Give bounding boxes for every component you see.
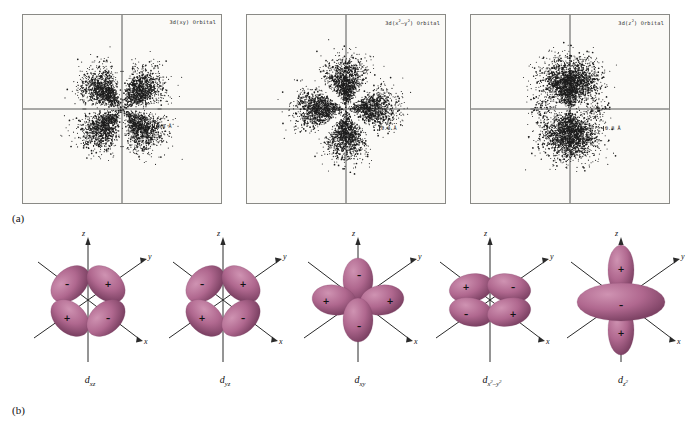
orbital-shape-d-xz: z y x–++– <box>20 228 160 378</box>
sub-sup-2: 2 <box>499 379 502 384</box>
svg-text:+: + <box>617 264 624 274</box>
scatter-dots-3d-xy <box>23 15 221 203</box>
svg-text:+: + <box>239 279 246 289</box>
scatter-panel-3d-xy: 3d(xy) Orbital 0.8 Å <box>22 14 222 204</box>
scale-tick-left <box>379 126 380 131</box>
scale-label-3d-x2-y2: 0.8 Å <box>381 125 397 131</box>
svg-text:–: – <box>65 279 69 289</box>
svg-text:x: x <box>278 337 283 346</box>
scale-label-3d-z2: 0.8 Å <box>605 125 621 131</box>
label-subscript: x2–y2 <box>487 380 501 387</box>
panel-b-label: (b) <box>12 404 25 416</box>
orbital-label-d-xz: dxz <box>20 374 160 387</box>
scale-tick-left <box>603 126 604 131</box>
panel-title-3d-z2: 3d(z2) Orbital <box>618 19 664 26</box>
svg-text:+: + <box>322 296 329 306</box>
orbital-label-d-x2-y2: dx2–y2 <box>422 374 562 387</box>
orbital-diagram-d-z2: z y x+–+ dz2 <box>553 228 693 398</box>
svg-text:y: y <box>282 252 287 261</box>
label-subscript: xz <box>90 380 96 387</box>
orbital-diagram-d-yz: z y x–++– dyz <box>155 228 295 398</box>
orbital-diagram-d-x2-y2: z y x+––+ dx2–y2 <box>422 228 562 398</box>
panel-a-scatter-row: 3d(xy) Orbital 0.8 Å 3d(x2–y2) Orbital 0… <box>0 0 697 215</box>
svg-text:y: y <box>147 252 152 261</box>
svg-text:+: + <box>198 313 205 323</box>
svg-text:+: + <box>104 279 111 289</box>
orbital-shape-d-yz: z y x–++– <box>155 228 295 378</box>
svg-text:–: – <box>357 321 361 331</box>
d-orbital-figure: 3d(xy) Orbital 0.8 Å 3d(x2–y2) Orbital 0… <box>0 0 697 426</box>
orbital-shape-d-z2: z y x+–+ <box>553 228 693 378</box>
label-subscript: z2 <box>623 380 628 387</box>
scale-bar-3d-xy: 0.8 Å <box>154 123 172 129</box>
scale-tick-left <box>154 124 155 129</box>
sub-sup: 2 <box>626 379 629 384</box>
svg-text:+: + <box>63 313 70 323</box>
scale-bar-3d-z2: 0.8 Å <box>603 125 621 131</box>
svg-text:+: + <box>462 282 469 292</box>
svg-text:z: z <box>614 229 619 238</box>
svg-text:–: – <box>241 313 245 323</box>
label-subscript: yz <box>225 380 231 387</box>
svg-text:x: x <box>143 337 148 346</box>
svg-text:–: – <box>357 270 361 280</box>
svg-text:x: x <box>676 337 681 346</box>
orbital-diagram-d-xy: z y x–++– dxy <box>290 228 430 398</box>
panel-title-3d-xy: 3d(xy) Orbital <box>169 19 216 25</box>
svg-text:x: x <box>545 337 550 346</box>
orbital-label-d-xy: dxy <box>290 374 430 387</box>
panel-title-3d-x2-y2: 3d(x2–y2) Orbital <box>385 19 440 26</box>
orbital-label-d-yz: dyz <box>155 374 295 387</box>
svg-text:–: – <box>619 300 623 310</box>
orbital-shape-d-x2-y2: z y x+––+ <box>422 228 562 378</box>
orbital-label-d-z2: dz2 <box>553 374 693 387</box>
label-subscript: xy <box>360 380 366 387</box>
scale-bar-3d-x2-y2: 0.8 Å <box>379 125 397 131</box>
svg-text:–: – <box>200 279 204 289</box>
svg-text:z: z <box>351 229 356 238</box>
svg-text:–: – <box>464 309 468 319</box>
scatter-dots-3d-x2-y2 <box>247 15 445 203</box>
svg-text:x: x <box>413 337 418 346</box>
svg-text:z: z <box>216 229 221 238</box>
svg-text:+: + <box>617 328 624 338</box>
svg-text:+: + <box>509 309 516 319</box>
svg-text:–: – <box>106 313 110 323</box>
svg-text:z: z <box>81 229 86 238</box>
panel-b-orbital-row: z y x–++– dxz z y x–++– dyz <box>0 228 697 426</box>
svg-text:z: z <box>483 229 488 238</box>
scatter-panel-3d-z2: 3d(z2) Orbital 0.8 Å <box>470 14 670 204</box>
panel-a-label: (a) <box>12 212 24 224</box>
scatter-panel-3d-x2-y2: 3d(x2–y2) Orbital 0.8 Å <box>246 14 446 204</box>
svg-text:y: y <box>680 252 685 261</box>
scatter-dots-3d-z2 <box>471 15 669 203</box>
orbital-shape-d-xy: z y x–++– <box>290 228 430 378</box>
scale-label-3d-xy: 0.8 Å <box>156 123 172 129</box>
svg-text:–: – <box>511 282 515 292</box>
orbital-diagram-d-xz: z y x–++– dxz <box>20 228 160 398</box>
svg-text:+: + <box>386 296 393 306</box>
